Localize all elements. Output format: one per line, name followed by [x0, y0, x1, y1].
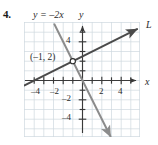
ytick-label-4: 4: [66, 35, 71, 45]
ytick-label-minus4: –4: [62, 112, 71, 122]
ytick-label-minus2: –2: [62, 93, 71, 103]
point-marker-open-circle: [70, 59, 75, 64]
x-axis-label: x: [145, 76, 149, 87]
equation-label: y = –2x: [33, 9, 64, 20]
xtick-label-minus2: –2: [50, 86, 59, 96]
plot-curves: [24, 22, 140, 137]
xtick-label-2: 2: [99, 86, 104, 96]
xtick-label-4: 4: [118, 86, 123, 96]
xtick-label-minus4: –4: [31, 86, 40, 96]
line-L-label: L: [146, 19, 152, 30]
y-axis-label: y: [79, 9, 83, 20]
point-coordinate-label: (–1, 2): [30, 52, 55, 62]
figure-container: 4.: [0, 0, 158, 145]
problem-number: 4.: [3, 8, 11, 20]
coordinate-plane: [24, 22, 140, 137]
